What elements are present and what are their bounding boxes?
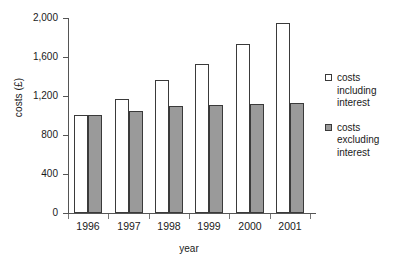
bar-group [192,18,226,213]
y-axis-tick-label: 1,200 [22,91,58,101]
bar [155,80,169,213]
chart-legend: costs including interestcosts excluding … [325,72,396,171]
x-axis-tick-mark [270,214,271,219]
y-axis-tick-label: 800 [22,130,58,140]
bars-layer [68,18,310,214]
legend-entry: costs including interest [325,72,396,110]
x-axis-tick-mark [189,214,190,219]
x-axis-title: year [68,243,310,254]
plot-area [68,18,310,214]
x-axis-tick-label: 1997 [109,220,149,232]
bar-chart-figure: costs (£) 04008001,2001,6002,000 1996199… [0,0,396,276]
legend-label: costs including interest [337,72,396,110]
legend-entry: costs excluding interest [325,122,396,160]
bar [115,99,129,213]
x-axis-tick-label: 1998 [149,220,189,232]
x-axis-tick-mark [149,214,150,219]
y-axis-tick-label: 1,600 [22,52,58,62]
x-axis-tick-labels: 199619971998199920002001 [68,220,316,234]
bar-group [273,18,307,213]
bar [236,44,250,213]
bar-group [112,18,146,213]
y-axis-tick-labels: 04008001,2001,6002,000 [22,14,58,214]
x-axis-tick-mark [68,214,69,219]
bar [88,115,102,213]
bar-group [152,18,186,213]
bar [129,111,143,213]
bar-group [71,18,105,213]
bar [209,105,223,213]
bar [195,64,209,213]
bar [169,106,183,213]
y-axis-tick-label: 400 [22,169,58,179]
x-axis-tick-mark [229,214,230,219]
bar [250,104,264,213]
x-axis-tick-label: 1999 [189,220,229,232]
white-square-swatch [325,74,332,81]
bar [290,103,304,213]
bar [276,23,290,213]
y-axis-tick-label: 2,000 [22,13,58,23]
y-axis-tick-label: 0 [22,208,58,218]
gray-square-swatch [325,124,332,131]
bar-group [233,18,267,213]
legend-label: costs excluding interest [337,122,396,160]
x-axis-tick-label: 2001 [270,220,310,232]
bar [74,115,88,213]
x-axis-tick-label: 2000 [230,220,270,232]
x-axis-tick-mark [108,214,109,219]
x-axis-tick-mark [310,214,311,219]
x-axis-tick-label: 1996 [68,220,108,232]
